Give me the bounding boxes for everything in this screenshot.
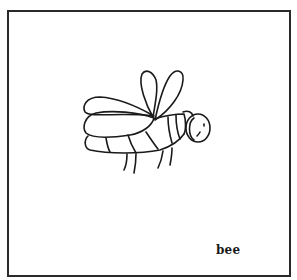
body-stripe-1 bbox=[106, 138, 110, 152]
bee-leg-4 bbox=[170, 148, 172, 165]
body-stripe-3 bbox=[146, 132, 158, 149]
body-stripe-2 bbox=[128, 135, 136, 153]
body-stripe-5 bbox=[176, 115, 180, 139]
bee-mouth bbox=[197, 132, 200, 136]
head-inner-curve bbox=[190, 118, 195, 140]
right-upper-wing bbox=[155, 71, 183, 120]
bee-leg-2 bbox=[134, 154, 136, 173]
picture-caption: bee bbox=[216, 243, 240, 257]
bee-leg-3 bbox=[158, 151, 163, 168]
body-stripe-4 bbox=[168, 117, 172, 143]
bee-illustration bbox=[0, 0, 297, 280]
bee-leg-1 bbox=[124, 154, 127, 170]
